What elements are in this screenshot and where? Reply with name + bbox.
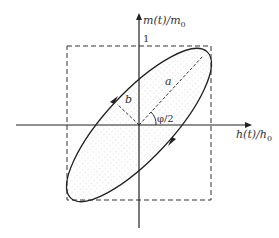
y-axis-label: m(t)/m0: [143, 14, 186, 29]
semi-minor-label: b: [125, 93, 132, 106]
angle-label: φ/2: [157, 113, 174, 124]
hysteresis-ellipse-diagram: m(t)/m0 1 h(t)/h0 a b φ/2: [0, 0, 279, 238]
y-axis-arrow-icon: [136, 13, 142, 20]
tick-label-one: 1: [143, 33, 149, 44]
semi-major-label: a: [165, 75, 172, 88]
x-axis-label: h(t)/h0: [236, 128, 272, 143]
